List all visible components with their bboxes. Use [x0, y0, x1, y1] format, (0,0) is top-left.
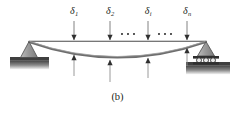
ellipsis-left-dot — [127, 33, 129, 35]
delta-symbol: δ — [183, 5, 188, 16]
ellipsis-right-dot — [170, 33, 172, 35]
load-label-2: δ2 — [106, 6, 114, 16]
deflected-beam-curve-highlight — [29, 41, 206, 56]
downward-load-arrows — [74, 21, 187, 40]
delta-symbol: δ — [70, 5, 75, 16]
figure-caption: (b) — [0, 92, 235, 103]
ellipsis-right-dot — [158, 33, 160, 35]
delta-symbol: δ — [106, 5, 111, 16]
delta-subscript: n — [188, 10, 191, 17]
load-label-1: δ1 — [70, 6, 78, 16]
load-label-n: δn — [183, 6, 191, 16]
deflected-beam-curve — [29, 42, 206, 58]
ellipsis-dot-groups — [121, 33, 172, 35]
beam-deflection-figure: δ1δ2δiδn (b) — [0, 0, 235, 113]
ground-left — [10, 57, 49, 69]
delta-subscript: 1 — [75, 10, 78, 17]
upward-reaction-arrows — [74, 48, 187, 82]
delta-subscript: i — [150, 10, 152, 17]
ellipsis-left-dot — [133, 33, 135, 35]
ellipsis-left-dot — [121, 33, 123, 35]
delta-symbol: δ — [145, 5, 150, 16]
load-label-i: δi — [145, 6, 151, 16]
delta-subscript: 2 — [111, 10, 114, 17]
ellipsis-right-dot — [164, 33, 166, 35]
